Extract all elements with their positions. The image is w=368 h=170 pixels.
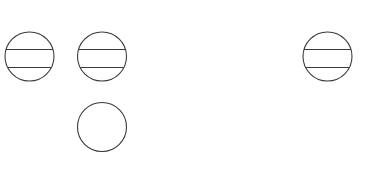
circle-outline bbox=[78, 103, 127, 152]
circle-outline bbox=[303, 32, 352, 81]
diagram-canvas bbox=[0, 0, 368, 170]
circle-shape bbox=[78, 103, 127, 152]
banded-circle-shape bbox=[303, 32, 352, 81]
circle-outline bbox=[5, 32, 54, 81]
circle-outline bbox=[78, 32, 127, 81]
banded-circle-shape bbox=[5, 32, 54, 81]
banded-circle-shape bbox=[78, 32, 127, 81]
